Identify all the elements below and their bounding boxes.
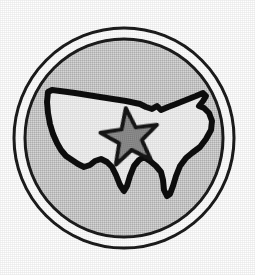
emblem-graphic bbox=[0, 0, 255, 275]
emblem-canvas bbox=[0, 0, 255, 275]
